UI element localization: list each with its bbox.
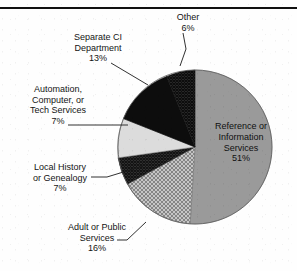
slice-label-automation-line-2: Computer, or [32,95,84,105]
slice-label-separate-ci-department: Separate CI Department 13% [52,32,144,64]
slice-label-other: Other 6% [158,12,218,33]
slice-label-local-history-or-genealogy: Local History or Genealogy 7% [8,162,112,194]
slice-label-adult-public-percent: 16% [44,243,150,254]
pie-chart: Other 6% Separate CI Department 13% Auto… [0,0,297,271]
slice-label-reference-percent: 51% [232,153,250,163]
slice-label-automation-line-1: Automation, [34,84,82,94]
slice-label-automation-line-3: Tech Services [30,105,86,115]
slice-label-reference-line-2: Information [218,132,263,142]
slice-label-local-history-line-2: or Genealogy [33,173,87,183]
leader-line-separate-ci-department [111,63,148,85]
slice-label-automation-computer-or-tech-services: Automation, Computer, or Tech Services 7… [6,84,110,126]
slice-label-local-history-line-1: Local History [34,162,86,172]
slice-label-automation-percent: 7% [6,116,110,127]
slice-label-local-history-percent: 7% [8,183,112,194]
slice-label-separate-ci-department-line-1: Separate CI [74,32,122,42]
slice-label-other-percent: 6% [158,23,218,34]
slice-label-reference-or-information-services: Reference or Information Services 51% [198,121,284,164]
slice-label-separate-ci-department-line-2: Department [74,43,121,53]
slice-label-reference-line-1: Reference or [215,121,267,131]
slice-label-adult-public-line-1: Adult or Public [68,222,126,232]
slice-label-separate-ci-department-percent: 13% [52,53,144,64]
slice-label-adult-or-public-services: Adult or Public Services 16% [44,222,150,254]
leader-line-other [180,33,186,66]
slice-label-other-line-1: Other [177,12,200,22]
slice-label-adult-public-line-2: Services [80,233,115,243]
chart-page: Other 6% Separate CI Department 13% Auto… [0,0,297,271]
slice-label-reference-line-3: Services [224,143,259,153]
